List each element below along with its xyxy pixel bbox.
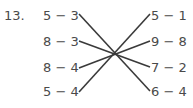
matching-lines [0,0,193,108]
